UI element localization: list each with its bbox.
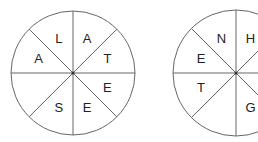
letter-wheels-diagram: ATEESALHGTEN: [0, 0, 258, 142]
center-dot: [235, 72, 238, 75]
segment-letter: E: [197, 51, 206, 66]
segment-letter: N: [217, 31, 226, 46]
segment-letter: E: [83, 100, 92, 115]
segment-letter: E: [103, 80, 112, 95]
segment-letter: L: [55, 31, 62, 46]
segment-letter: T: [103, 51, 111, 66]
segment-letter: A: [34, 51, 43, 66]
segment-letter: S: [54, 100, 63, 115]
right-wheel: HGTEN: [173, 10, 258, 136]
segment-letter: A: [83, 31, 92, 46]
left-wheel: ATEESAL: [11, 11, 135, 135]
center-dot: [72, 72, 75, 75]
segment-letter: G: [245, 100, 255, 115]
segment-letter: T: [197, 80, 205, 95]
segment-letter: H: [246, 31, 255, 46]
